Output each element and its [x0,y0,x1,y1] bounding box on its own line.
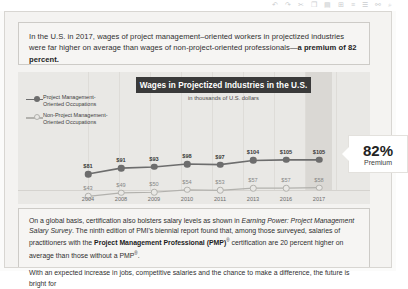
x-axis-label: 2016 [280,196,292,202]
x-axis-label: 2017 [313,196,325,202]
data-point [118,165,125,172]
data-point [217,187,224,194]
x-axis-label: 2008 [115,196,127,202]
align-icon[interactable]: ≡ [351,1,355,9]
data-point [85,171,92,178]
premium-percent: 82% [363,143,393,158]
x-axis-label: 2009 [148,196,160,202]
x-axis-label: 2004 [82,196,94,202]
copy-icon[interactable]: ❐ [311,1,317,9]
list-icon[interactable]: ☰ [362,1,368,9]
x-axis-label: 2011 [214,196,226,202]
data-point [316,184,323,191]
format-icon[interactable]: ⊞ [338,1,344,9]
data-label: $105 [313,149,325,155]
data-point [217,161,224,168]
body-text-box: On a global basis, certification also bo… [18,208,370,267]
data-label: $58 [314,177,323,183]
chart-plot-area: Wages in Projectized Industries in the U… [18,72,370,204]
body-p1-part-a: On a global basis, certification also bo… [29,217,242,224]
x-axis-label: 2013 [247,196,259,202]
data-point [250,185,257,192]
data-label: $97 [215,154,224,160]
app-toolbar[interactable]: ↶ ↷ ✂ ❐ ▤ ⊞ ≡ ☰ ⚯ ⌕ [0,0,396,11]
zoom-icon[interactable]: ⌕ [388,1,392,9]
data-label: $53 [215,179,224,185]
intro-paragraph: In the U.S. in 2017, wages of project ma… [29,31,359,65]
data-point [151,189,158,196]
body-paragraph-1: On a global basis, certification also bo… [29,216,359,261]
wages-line-chart: Wages in Projectized Industries in the U… [18,72,370,204]
body-paragraph-2: With an expected increase in jobs, compe… [29,268,359,288]
body-p1-part-d: . [138,252,140,259]
x-axis-label: 2010 [181,196,193,202]
data-point [184,161,191,168]
data-label: $98 [182,153,191,159]
document-sheet: In the U.S. in 2017, wages of project ma… [5,12,391,267]
data-point [151,164,158,171]
data-point [316,157,323,164]
intro-callout-box: In the U.S. in 2017, wages of project ma… [18,22,370,65]
data-point [250,157,257,164]
data-label: $50 [149,181,158,187]
data-label: $54 [182,179,191,185]
redo-icon[interactable]: ↷ [285,1,291,9]
data-label: $91 [116,157,125,163]
data-label: $81 [83,163,92,169]
data-point [283,185,290,192]
data-label: $104 [247,149,259,155]
data-label: $49 [116,182,125,188]
premium-callout: 82% Premium [348,135,408,173]
link-icon[interactable]: ⚯ [375,1,381,9]
paste-icon[interactable]: ▤ [324,1,331,9]
data-label: $105 [280,149,292,155]
data-label: $57 [248,177,257,183]
data-label: $93 [149,156,158,162]
premium-label: Premium [364,159,392,166]
cut-icon[interactable]: ✂ [298,1,304,9]
data-point [184,187,191,194]
undo-icon[interactable]: ↶ [272,1,278,9]
body-p1-bold-pmp: Project Management Professional (PMP) [94,240,226,247]
toolbar-icon-group[interactable]: ↶ ↷ ✂ ❐ ▤ ⊞ ≡ ☰ ⚯ ⌕ [272,1,392,9]
data-point [283,157,290,164]
data-label: $43 [83,185,92,191]
data-label: $57 [281,177,290,183]
